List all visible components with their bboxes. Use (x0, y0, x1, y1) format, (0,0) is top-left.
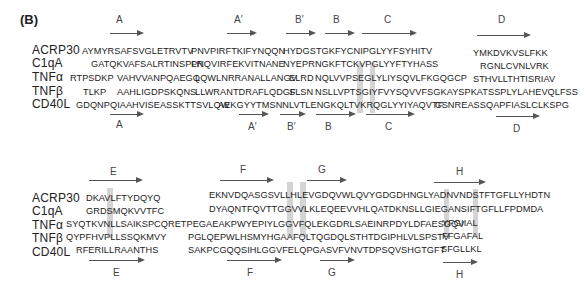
protein-name-c1qa: C1qA (32, 204, 63, 218)
sequence-segment: EKNVDQASGSVLLHLEVGDQVWLQVYGDGDHNGLYADNVN… (209, 190, 550, 200)
strand-label-A2-top: A′ (234, 14, 243, 25)
sequence-segment: AYMYRSAFSVGLETRVTV (82, 46, 193, 56)
protein-name-cd40l: CD40L (32, 97, 70, 111)
sequence-segment: GATQKVAFSALRTINSPLR (91, 59, 203, 69)
strand-label-B2-top: B′ (295, 14, 304, 25)
strand-arrow-G-top (307, 180, 345, 181)
sequence-segment: GDQNPQIAAHVISEASSKTTSVLQW (76, 100, 229, 110)
sequence-segment: NQLVVPSEGLYLIYSQVLFKGQGCP (315, 73, 467, 83)
strand-arrow-B2-bottom (280, 114, 304, 115)
strand-label-B-top: B (333, 14, 340, 25)
strand-arrow-C-top (362, 33, 415, 34)
strand-arrow-D-top (477, 35, 529, 36)
strand-label-G-top: G (318, 164, 326, 175)
sequence-segment: YFGIIAL (442, 218, 478, 228)
sequence-segment: RGNLCVNLVRK (480, 61, 549, 71)
panel-label: (B) (20, 12, 38, 27)
strand-label-A-top: A (116, 14, 123, 25)
sequence-segment: NSLLVPTSGIYFVYSQVVFSGKAYSPKATSSPLYLAHEVQ… (315, 87, 578, 97)
strand-label-C-top: C (384, 14, 391, 25)
strand-label-A-bottom: A (116, 119, 123, 130)
sequence-segment: AEKGYYTMSNNLVTLENGKQLTVKRQGLYYIYAQVTF (218, 100, 443, 110)
strand-arrow-C-bottom (366, 114, 413, 115)
strand-arrow-B-bottom (316, 114, 354, 115)
sequence-segment: PNQVIRFEKVITNANE (191, 59, 285, 69)
sequence-segment: YMKDVKVSLFKK (473, 48, 548, 58)
sequence-segment: PGLQEPWLHSMYHGAAFQLTQGDQLSTHTDGIPHLVLSPS… (188, 232, 449, 242)
strand-label-A2-bottom: A′ (248, 121, 257, 132)
strand-label-F-bottom: F (247, 267, 253, 278)
strand-label-B-bottom: B (325, 121, 332, 132)
protein-name-c1qa: C1qA (32, 56, 63, 70)
sequence-segment: AAHLIGDPSKQNS (117, 87, 196, 97)
strand-label-D-top: D (498, 14, 505, 25)
strand-arrow-A-bottom (110, 114, 142, 115)
sequence-segment: SYQTKVNLLSAIKSPCQRETPEGAEAKPWYEPIYLGGVFQ… (66, 219, 464, 229)
sequence-segment: STHVLLTHTISRIAV (473, 74, 555, 84)
protein-name-acrp30: ACRP30 (32, 191, 80, 205)
protein-name-tnfb: TNFβ (32, 84, 63, 98)
sequence-segment: HYDGSTGKFYCNIPGLYYFSYHITV (283, 46, 432, 56)
sequence-segment: RFERILLRAANTHS (76, 245, 158, 255)
protein-name-tnfb: TNFβ (32, 231, 63, 245)
strand-label-H-bottom: H (456, 269, 463, 280)
strand-label-E-top: E (110, 166, 117, 177)
strand-arrow-G-bottom (320, 260, 353, 261)
strand-label-H-top: H (456, 166, 463, 177)
strand-arrow-B2-top (286, 33, 314, 34)
sequence-segment: ELRD (289, 73, 314, 83)
protein-name-tnfa: TNFα (32, 218, 63, 232)
strand-arrow-H-top (434, 182, 484, 183)
strand-label-D-bottom: D (513, 123, 520, 134)
sequence-segment: SFGLLKL (441, 244, 482, 254)
protein-name-cd40l: CD40L (32, 245, 70, 259)
strand-label-F-top: F (240, 164, 246, 175)
strand-arrow-D-bottom (496, 116, 538, 117)
sequence-segment: QYPFHVPLLSSQKMVY (66, 232, 166, 242)
strand-label-C-bottom: C (385, 121, 392, 132)
strand-arrow-E-top (89, 180, 141, 181)
strand-label-B2-bottom: B′ (287, 121, 296, 132)
sequence-segment: RTPSDKP (70, 73, 114, 83)
strand-arrow-E-bottom (89, 260, 143, 261)
strand-arrow-A2-bottom (239, 114, 267, 115)
sequence-segment: DKAVLFTYDQYQ (86, 193, 160, 203)
strand-label-E-bottom: E (113, 267, 120, 278)
sequence-segment: VAHVVANPQAEGQ (117, 73, 200, 83)
sequence-segment: LLWRANTDRAFLQDGF (195, 87, 296, 97)
sequence-segment: TLKP (83, 87, 106, 97)
sequence-segment: NYEPRNGKFTCKVPGLYYFTYHASS (283, 59, 438, 69)
sequence-segment: LQWLNRRANALLANGV (195, 73, 297, 83)
protein-name-tnfa: TNFα (32, 70, 63, 84)
protein-name-acrp30: ACRP30 (32, 43, 80, 57)
sequence-segment: DYAQNTFQVTTGGVVLKLEQEEVVHLQATDKNSLLGIEGA… (209, 204, 543, 214)
strand-label-G-bottom: G (328, 267, 336, 278)
sequence-segment: FFGAFAL (442, 231, 483, 241)
strand-arrow-F-bottom (227, 260, 280, 261)
strand-arrow-F-top (220, 180, 272, 181)
strand-arrow-H-bottom (443, 262, 476, 263)
sequence-segment: PNVPIRFTKIFYNQQN (191, 46, 285, 56)
sequence-segment: SAKPCGQQSIHLGGVFELQPGASVFVNVTDPSQVSHGTGF… (188, 245, 445, 255)
strand-arrow-A2-top (227, 33, 255, 34)
sequence-segment: SLSN (289, 87, 313, 97)
sequence-segment: GRDSMQKVVTFC (86, 206, 164, 216)
strand-arrow-B-top (325, 33, 353, 34)
strand-arrow-A-top (110, 33, 142, 34)
sequence-segment: CSNREASSQAPFIASLCLKSPG (435, 100, 569, 110)
